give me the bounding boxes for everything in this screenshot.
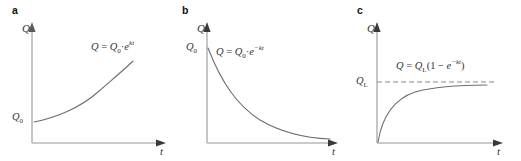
panel-c: c Q t QL Q = QL(1 − e−kt) xyxy=(345,0,520,161)
x-axis-label-c: t xyxy=(497,145,500,157)
curve-decay-b xyxy=(208,48,330,139)
panel-a: a Q t Q0 Q = Q0·ekt xyxy=(0,0,175,161)
panel-b: b Q t Q0 Q = Q0·e−kt xyxy=(170,0,345,161)
equation-a: Q = Q0·ekt xyxy=(91,39,134,55)
y-tick-q0-a: Q0 xyxy=(12,111,23,125)
equation-c: Q = QL(1 − e−kt) xyxy=(396,58,465,74)
y-tick-ql-c: QL xyxy=(356,75,368,89)
equation-b: Q = Q0·e−kt xyxy=(216,44,264,60)
y-tick-q0-b: Q0 xyxy=(186,41,197,55)
y-axis-label-c: Q xyxy=(367,22,375,34)
y-axis-a xyxy=(28,22,35,143)
x-axis-a xyxy=(32,139,166,146)
x-axis-c xyxy=(377,139,503,146)
x-axis-label-a: t xyxy=(160,145,163,157)
x-axis-label-b: t xyxy=(332,145,335,157)
y-axis-b xyxy=(203,22,210,143)
x-axis-b xyxy=(207,139,338,146)
y-axis-label-a: Q xyxy=(22,22,30,34)
y-axis-label-b: Q xyxy=(197,22,205,34)
curve-saturation-c xyxy=(378,85,487,142)
curve-growth-a xyxy=(34,61,133,122)
